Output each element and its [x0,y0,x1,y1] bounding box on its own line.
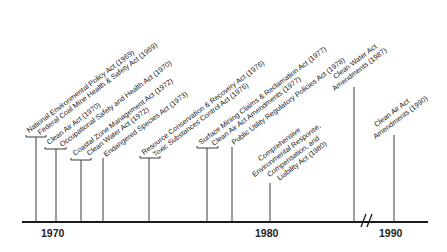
marker-1977 [197,146,218,222]
timeline-diagram: 1970 1980 1990 National Environmental Po… [0,0,447,252]
year-label-1980: 1980 [255,227,279,239]
marker-1969 [26,135,46,222]
year-label-1990: 1990 [379,227,403,239]
year-label-1970: 1970 [41,227,65,239]
marker-1970 [45,147,66,222]
marker-1972 [71,158,91,222]
axis-break-mark [361,214,372,227]
marker-1976 [140,156,160,222]
event-label-caa-1990: Clean Air Act Amendments (1990) [366,87,430,141]
